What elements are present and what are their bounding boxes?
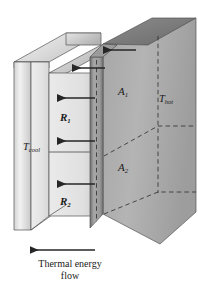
caption-line-1: Thermal energy xyxy=(0,258,140,270)
left-slab-edge-face xyxy=(14,62,31,230)
middle-slab-top-connector xyxy=(66,33,101,45)
right-slab-hot xyxy=(103,18,196,244)
left-slab-front-face xyxy=(31,62,49,230)
caption-thermal-energy-flow: Thermal energy flow xyxy=(0,258,140,281)
thermal-resistance-diagram xyxy=(0,0,198,286)
right-slab-front-face xyxy=(103,18,196,244)
caption-line-2: flow xyxy=(0,270,140,282)
